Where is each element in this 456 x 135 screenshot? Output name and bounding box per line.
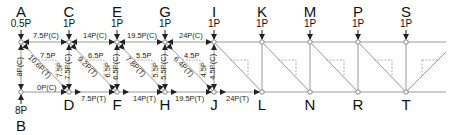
truss-diagram: A C E G I K M P S 0.5P 1P 1P 1P 1P 1P 1P… (0, 0, 456, 135)
load-label-e: 1P (111, 19, 123, 29)
node-label-m: M (304, 4, 317, 19)
node-label-f: F (112, 97, 121, 112)
component-v-cf: 6.5P (104, 62, 112, 77)
force-fh: 14P(T) (133, 95, 156, 103)
node-label-k: K (257, 4, 267, 19)
reaction-label-b: 8P (15, 106, 27, 116)
load-label-g: 1P (159, 19, 171, 29)
node-label-d: D (64, 97, 75, 112)
component-h-cf: 6.5P (88, 52, 103, 60)
node-label-t: T (401, 97, 410, 112)
force-hj: 19.5P(T) (175, 95, 204, 103)
node-label-l: L (258, 97, 266, 112)
force-eg: 19.5P(C) (127, 32, 157, 40)
force-df: 7.5P(T) (81, 95, 106, 103)
load-label-p: 1P (352, 19, 364, 29)
component-v-ad: 7.5P (56, 62, 64, 77)
component-h-ad: 7.5P (40, 52, 55, 60)
load-label-a: 0.5P (11, 19, 32, 29)
node-label-p: P (353, 4, 363, 19)
load-label-s: 1P (400, 19, 412, 29)
node-label-h: H (160, 97, 171, 112)
node-label-a: A (16, 4, 26, 19)
node-label-i: I (212, 4, 216, 19)
node-label-s: S (401, 4, 411, 19)
component-triangles (38, 60, 440, 78)
component-h-eh: 5.5P (136, 52, 151, 60)
component-h-gj: 4.5P (184, 52, 199, 60)
node-label-e: E (112, 4, 122, 19)
node-label-c: C (64, 4, 75, 19)
load-label-m: 1P (304, 19, 316, 29)
force-ef: 6.5P(C) (112, 54, 120, 80)
force-ij: 4.5P(C) (209, 54, 217, 80)
force-ce: 14P(C) (83, 32, 107, 40)
load-label-i: 1P (208, 19, 220, 29)
node-label-j: J (210, 97, 218, 112)
force-jl: 24P(T) (226, 95, 249, 103)
node-label-r: R (353, 97, 364, 112)
load-label-k: 1P (256, 19, 268, 29)
load-label-c: 1P (63, 19, 75, 29)
component-v-gj: 4.5P (200, 62, 208, 77)
force-cd: 7.5P(C) (64, 54, 72, 80)
node-label-b: B (16, 118, 26, 133)
node-label-n: N (305, 97, 316, 112)
node-label-g: G (159, 4, 171, 19)
force-gi: 24P(C) (179, 32, 203, 40)
force-ac: 7.5P(C) (33, 32, 59, 40)
force-gh: 5.5P(C) (160, 54, 168, 80)
force-bd: 0P(C) (37, 84, 57, 92)
component-v-eh: 5.5P (152, 62, 160, 77)
force-ab: 8P(C) (16, 57, 24, 77)
